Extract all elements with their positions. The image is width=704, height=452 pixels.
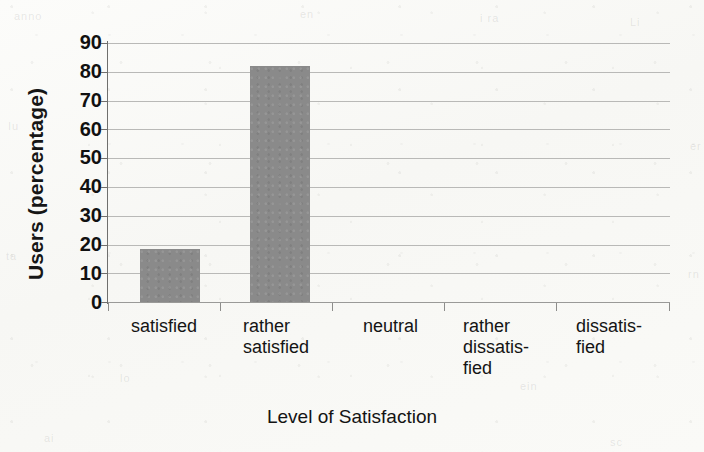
y-tick-mark-20 [101, 245, 108, 246]
y-tick-mark-60 [101, 129, 108, 130]
y-tick-mark-0 [101, 302, 108, 303]
y-tick-label-20: 20 [58, 234, 102, 254]
gridline-60 [108, 129, 670, 130]
x-tick-mark-4 [556, 303, 557, 311]
x-tick-mark-2 [332, 303, 333, 311]
y-axis-tick-labels: 90 80 70 60 50 40 30 20 10 0 [52, 0, 102, 452]
y-tick-mark-30 [101, 216, 108, 217]
gridline-90 [108, 43, 670, 44]
y-tick-label-90: 90 [58, 32, 102, 52]
gridline-50 [108, 158, 670, 159]
y-tick-label-50: 50 [58, 147, 102, 167]
y-tick-label-70: 70 [58, 90, 102, 110]
y-tick-mark-90 [101, 43, 108, 44]
x-category-label-dissatisfied: dissatis- fied [576, 316, 642, 358]
y-tick-label-80: 80 [58, 61, 102, 81]
y-tick-mark-10 [101, 273, 108, 274]
x-tick-mark-5 [669, 303, 670, 311]
y-tick-label-10: 10 [58, 263, 102, 283]
x-category-label-rather-dissatisfied: rather dissatis- fied [463, 316, 529, 379]
x-tick-mark-1 [220, 303, 221, 311]
x-category-label-rather-satisfied: rather satisfied [243, 316, 309, 358]
gridline-40 [108, 187, 670, 188]
x-tick-mark-0 [108, 303, 109, 311]
x-category-label-neutral: neutral [363, 316, 418, 337]
x-tick-mark-3 [444, 303, 445, 311]
gridline-20 [108, 245, 670, 246]
gridline-0 [108, 302, 670, 303]
y-tick-mark-70 [101, 101, 108, 102]
y-tick-label-60: 60 [58, 119, 102, 139]
y-tick-label-30: 30 [58, 205, 102, 225]
gridline-80 [108, 72, 670, 73]
gridline-70 [108, 101, 670, 102]
plot-area [108, 43, 670, 302]
y-tick-mark-80 [101, 72, 108, 73]
bar-satisfied[interactable] [140, 249, 200, 302]
y-tick-mark-40 [101, 187, 108, 188]
bar-chart: Users (percentage) 90 80 70 60 50 40 30 … [0, 0, 704, 452]
y-axis-title: Users (percentage) [24, 64, 48, 304]
y-tick-label-40: 40 [58, 176, 102, 196]
y-tick-mark-50 [101, 158, 108, 159]
x-category-label-satisfied: satisfied [131, 316, 197, 337]
x-axis-title: Level of Satisfaction [0, 406, 704, 428]
gridline-30 [108, 216, 670, 217]
bar-rather-satisfied[interactable] [250, 66, 310, 302]
y-tick-label-0: 0 [58, 292, 102, 312]
